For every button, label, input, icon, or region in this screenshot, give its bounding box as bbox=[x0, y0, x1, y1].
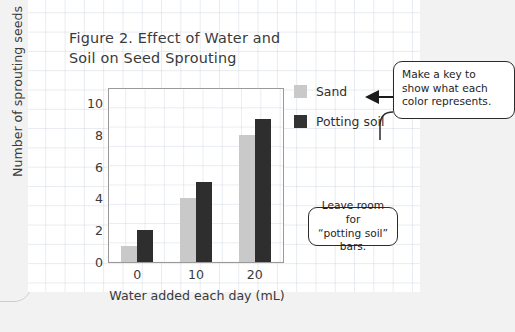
graph-paper-card: Figure 2. Effect of Water and Soil on Se… bbox=[28, 0, 420, 292]
y-axis-label: Number of sprouting seeds bbox=[10, 0, 25, 257]
callout-leader-lines bbox=[28, 0, 420, 292]
